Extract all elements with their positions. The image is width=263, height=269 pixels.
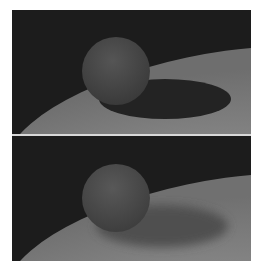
sphere <box>82 37 150 105</box>
soft-shadow-scene <box>12 136 251 261</box>
sphere <box>82 164 150 232</box>
render-panel-soft-shadow <box>12 136 251 261</box>
render-panel-hard-shadow <box>12 10 251 134</box>
hard-shadow-scene <box>12 10 251 134</box>
